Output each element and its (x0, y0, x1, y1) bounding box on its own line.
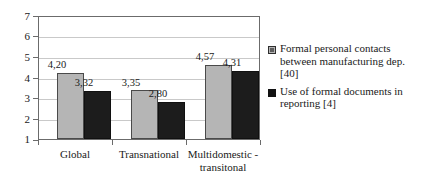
x-category-multidomestic-line-2: transitonal (200, 161, 246, 173)
bar-transnational-series-b[interactable] (158, 102, 185, 139)
bar-chart-figure: 7 6 5 4 3 2 1 (0, 0, 436, 186)
legend-item-use-of-formal-documents[interactable]: Use of formal documents in reporting [4] (268, 85, 434, 110)
y-tick-label-2: 2 (4, 114, 30, 125)
legend-label-series-b-line-2: reporting [4] (280, 97, 336, 109)
bar-multidomestic-series-b[interactable] (232, 71, 259, 139)
legend-label-series-a-line-3: [40] (280, 67, 298, 79)
data-label-transnational-series-b: 2,80 (138, 88, 178, 99)
y-tick-label-7: 7 (4, 11, 30, 22)
x-tick-mark-2 (186, 140, 187, 145)
x-category-label-multidomestic-transitonal: Multidomestic - transitonal (168, 148, 278, 174)
legend-label-series-a-line-1: Formal personal contacts (280, 42, 391, 54)
legend-label-series-a-line-2: between manufacturing dep. (280, 55, 405, 67)
x-tick-mark-0 (38, 140, 39, 145)
legend-swatch-icon-series-b (268, 89, 276, 97)
x-tick-mark-3 (260, 140, 261, 145)
x-category-global-line-1: Global (60, 148, 90, 160)
y-tick-label-3: 3 (4, 93, 30, 104)
x-tick-mark-1 (112, 140, 113, 145)
bar-global-series-b[interactable] (84, 91, 111, 139)
legend-label-series-b-line-1: Use of formal documents in (280, 85, 403, 97)
y-tick-label-5: 5 (4, 52, 30, 63)
y-tick-label-1: 1 (4, 134, 30, 145)
legend-swatch-icon-series-a (268, 46, 276, 54)
data-label-global-series-a: 4,20 (37, 59, 77, 70)
x-category-multidomestic-line-1: Multidomestic - (188, 148, 259, 160)
y-tick-label-6: 6 (4, 31, 30, 42)
bar-multidomestic-series-a[interactable] (205, 65, 232, 139)
legend-label-series-b: Use of formal documents in reporting [4] (280, 85, 403, 110)
legend-label-series-a: Formal personal contacts between manufac… (280, 42, 405, 80)
bar-group-multidomestic-transitonal (205, 17, 265, 139)
data-label-global-series-b: 3,32 (64, 77, 104, 88)
legend-item-formal-personal-contacts[interactable]: Formal personal contacts between manufac… (268, 42, 434, 80)
y-tick-label-4: 4 (4, 73, 30, 84)
data-label-transnational-series-a: 3,35 (111, 77, 151, 88)
data-label-multidomestic-series-b: 4,31 (212, 57, 252, 68)
chart-legend: Formal personal contacts between manufac… (268, 42, 434, 115)
